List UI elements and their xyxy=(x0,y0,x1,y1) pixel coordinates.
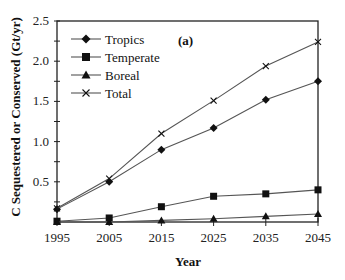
line-chart: 0.51.01.52.02.5 199520052015202520352045… xyxy=(0,0,345,280)
legend-item-total: Total xyxy=(71,86,132,101)
x-tick-label: 2005 xyxy=(96,230,122,245)
x-tick-label: 1995 xyxy=(44,230,70,245)
y-tick-label: 1.5 xyxy=(33,93,49,108)
plot-frame xyxy=(57,21,318,222)
x-tick-label: 2025 xyxy=(201,230,227,245)
x-tick-label: 2015 xyxy=(148,230,174,245)
legend-item-temperate: Temperate xyxy=(71,50,160,65)
series-temperate xyxy=(54,186,322,224)
legend-item-tropics: Tropics xyxy=(71,32,144,47)
legend-label: Boreal xyxy=(105,68,140,83)
y-axis: 0.51.01.52.02.5 xyxy=(33,13,60,202)
series-layer xyxy=(53,39,322,225)
panel-label: (a) xyxy=(178,33,193,48)
y-tick-label: 1.0 xyxy=(33,134,49,149)
series-total xyxy=(54,39,321,211)
y-axis-title: C Sequestered or Conserved (Gt/yr) xyxy=(8,17,23,217)
plot-border xyxy=(57,21,318,222)
y-tick-label: 0.5 xyxy=(33,174,49,189)
legend-label: Tropics xyxy=(105,32,144,47)
legend-label: Temperate xyxy=(105,50,160,65)
legend: TropicsTemperateBorealTotal xyxy=(71,32,160,101)
series-boreal xyxy=(53,210,322,225)
y-tick-label: 2.0 xyxy=(33,53,49,68)
x-axis-title: Year xyxy=(175,254,201,269)
legend-label: Total xyxy=(105,86,132,101)
y-tick-label: 2.5 xyxy=(33,13,49,28)
legend-item-boreal: Boreal xyxy=(71,68,140,83)
x-tick-label: 2045 xyxy=(305,230,331,245)
x-tick-label: 2035 xyxy=(253,230,279,245)
